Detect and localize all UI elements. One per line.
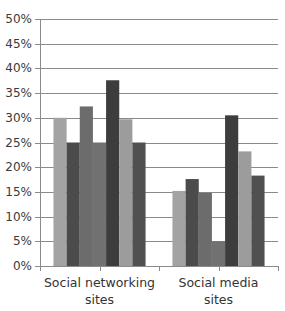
bar — [119, 119, 132, 266]
bar — [93, 143, 106, 267]
x-category-label: Social mediasites — [159, 274, 278, 308]
x-category-label-line: Social networking — [40, 274, 159, 291]
bar — [225, 115, 238, 266]
y-tick-label: 40% — [5, 62, 32, 74]
y-tick-label: 0% — [13, 260, 32, 272]
y-tick-label: 15% — [5, 186, 32, 198]
bar — [238, 151, 251, 266]
y-tick-label: 5% — [13, 235, 32, 247]
bar — [106, 80, 119, 266]
bar — [53, 118, 66, 266]
plot-area — [0, 0, 285, 311]
x-category-label-line: Social media — [159, 274, 278, 291]
grouped-bar-chart: 0%5%10%15%20%25%30%35%40%45%50% Social n… — [0, 0, 285, 311]
bar — [67, 143, 80, 267]
y-tick-label: 20% — [5, 161, 32, 173]
bar — [186, 179, 199, 266]
y-tick-label: 50% — [5, 13, 32, 25]
x-category-label-line: sites — [40, 291, 159, 308]
bars — [53, 80, 264, 266]
bar — [80, 106, 93, 266]
bar — [172, 191, 185, 266]
bar — [132, 143, 145, 267]
y-tick-label: 30% — [5, 112, 32, 124]
x-category-label: Social networkingsites — [40, 274, 159, 308]
bar — [251, 176, 264, 266]
bar — [212, 241, 225, 266]
y-tick-label: 10% — [5, 211, 32, 223]
y-tick-label: 35% — [5, 87, 32, 99]
bar — [199, 193, 212, 266]
y-tick-label: 45% — [5, 38, 32, 50]
y-tick-label: 25% — [5, 137, 32, 149]
x-category-label-line: sites — [159, 291, 278, 308]
